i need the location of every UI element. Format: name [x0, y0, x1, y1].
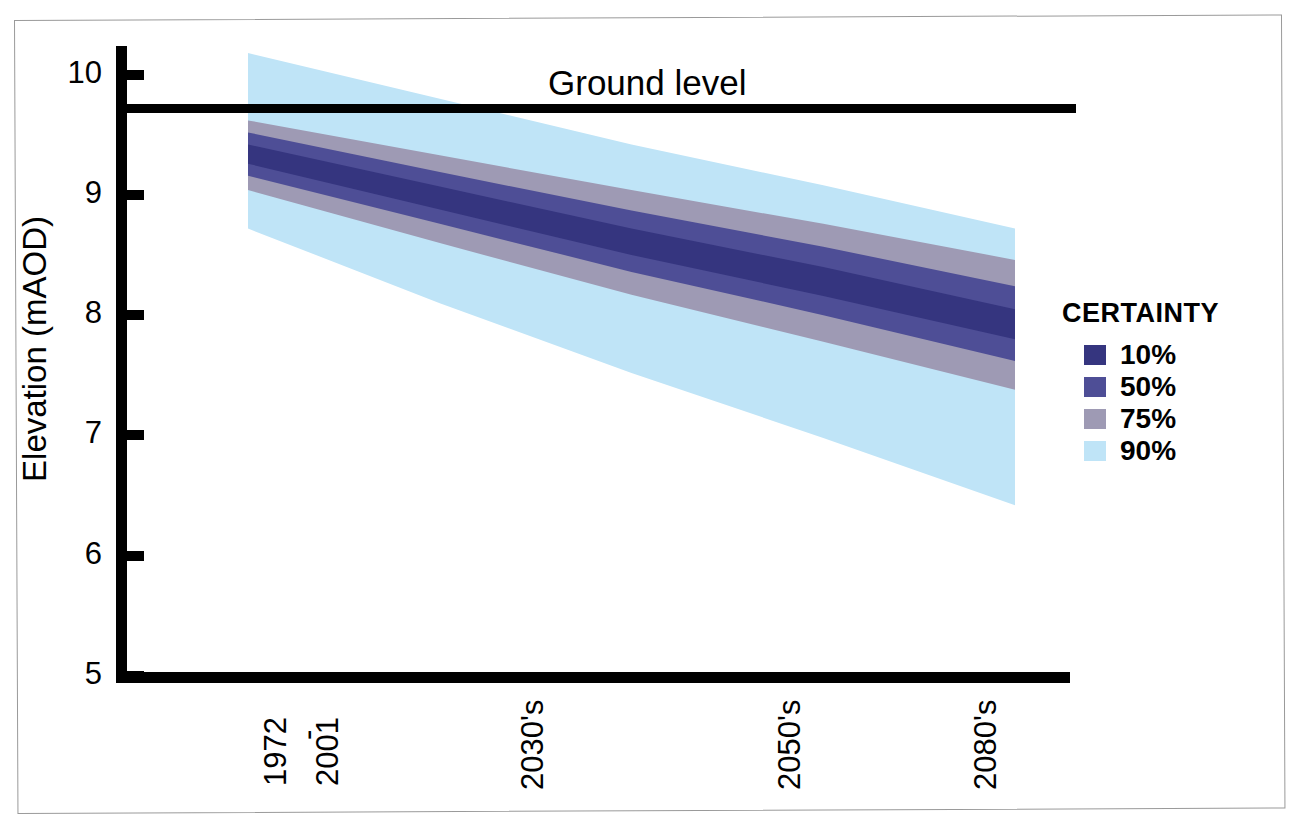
legend-swatch-50pct [1084, 377, 1106, 397]
legend-swatch-10pct [1084, 345, 1106, 365]
x-tick-label-2050s: 2050's [772, 700, 808, 790]
uncertainty-bands [127, 46, 1070, 676]
y-tick-7 [127, 430, 144, 440]
x-tick-label-baseline-part-3: 2001 [310, 717, 346, 786]
legend-label-50pct: 50% [1120, 373, 1176, 401]
x-tick-label-baseline-part-1: 1972 [258, 717, 294, 786]
y-tick-6 [127, 551, 144, 561]
legend-label-90pct: 90% [1120, 437, 1176, 465]
y-tick-10 [127, 70, 144, 80]
legend-item-10pct: 10% [1084, 341, 1262, 369]
y-tick-8 [127, 310, 144, 320]
ground-level-label: Ground level [548, 63, 746, 103]
y-axis-line [116, 46, 127, 682]
x-tick-label-2030s: 2030's [515, 700, 551, 790]
y-tick-label-9: 9 [56, 177, 102, 208]
y-tick-label-8: 8 [56, 297, 102, 328]
legend-label-10pct: 10% [1120, 341, 1176, 369]
legend-item-75pct: 75% [1084, 405, 1262, 433]
y-axis-title: Elevation (mAOD) [16, 109, 54, 589]
legend-swatch-90pct [1084, 441, 1106, 461]
y-tick-label-10: 10 [56, 57, 102, 88]
x-axis-line [116, 672, 1070, 683]
y-tick-9 [127, 190, 144, 200]
plot-area [127, 46, 1070, 676]
y-tick-label-7: 7 [56, 417, 102, 448]
ground-level-line [118, 104, 1076, 113]
legend-item-50pct: 50% [1084, 373, 1262, 401]
y-tick-5 [127, 671, 144, 681]
y-tick-label-6: 6 [56, 538, 102, 569]
x-tick-label-2080s: 2080's [968, 700, 1004, 790]
legend-title: CERTAINTY [1062, 298, 1262, 329]
legend-label-75pct: 75% [1120, 405, 1176, 433]
elevation-uncertainty-chart: 1098765 Elevation (mAOD) Ground level 19… [0, 0, 1298, 834]
legend-items: 10%50%75%90% [1062, 341, 1262, 465]
legend: CERTAINTY 10%50%75%90% [1062, 298, 1262, 469]
y-tick-label-5: 5 [56, 658, 102, 689]
legend-item-90pct: 90% [1084, 437, 1262, 465]
legend-swatch-75pct [1084, 409, 1106, 429]
